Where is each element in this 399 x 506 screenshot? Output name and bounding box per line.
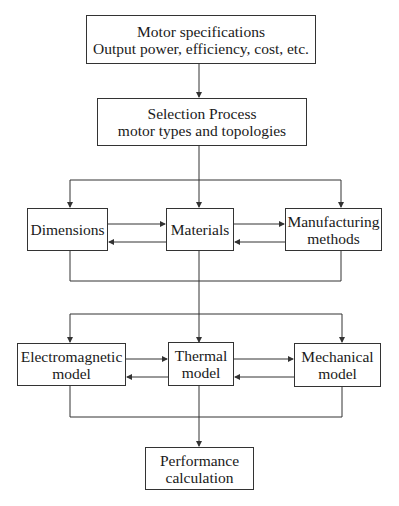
node-label: Thermal	[175, 347, 228, 364]
node-label: motor types and topologies	[118, 122, 286, 139]
node-label: Performance	[160, 452, 239, 469]
node-dimensions: Dimensions	[27, 208, 108, 251]
node-electromagnetic-model: Electromagnetic model	[17, 343, 126, 386]
node-label: calculation	[166, 469, 234, 486]
node-label: model	[318, 365, 357, 382]
node-label: Dimensions	[30, 221, 104, 238]
node-motor-specifications: Motor specifications Output power, effic…	[86, 15, 316, 64]
node-label: Output power, efficiency, cost, etc.	[93, 40, 309, 57]
node-manufacturing-methods: Manufacturing methods	[285, 208, 382, 251]
node-label: methods	[307, 230, 360, 247]
node-label: Materials	[171, 221, 230, 238]
node-label: Electromagnetic	[21, 348, 123, 365]
node-materials: Materials	[166, 208, 234, 251]
node-selection-process: Selection Process motor types and topolo…	[97, 98, 307, 146]
node-mechanical-model: Mechanical model	[294, 343, 381, 387]
node-label: Mechanical	[301, 348, 373, 365]
node-label: model	[182, 364, 221, 381]
node-label: Manufacturing	[287, 213, 379, 230]
node-performance-calculation: Performance calculation	[145, 447, 254, 490]
node-label: Motor specifications	[137, 23, 265, 40]
node-label: Selection Process	[148, 105, 257, 122]
node-thermal-model: Thermal model	[168, 342, 234, 386]
node-label: model	[52, 365, 91, 382]
connector-lines	[0, 0, 399, 506]
